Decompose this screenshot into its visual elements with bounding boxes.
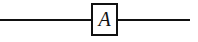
gate-label-a: A	[98, 9, 110, 29]
qubit-wire-right-segment	[117, 19, 190, 21]
gate-box-a[interactable]: A	[91, 3, 118, 36]
circuit-canvas: A	[0, 0, 198, 42]
qubit-wire-left-segment	[0, 19, 92, 21]
